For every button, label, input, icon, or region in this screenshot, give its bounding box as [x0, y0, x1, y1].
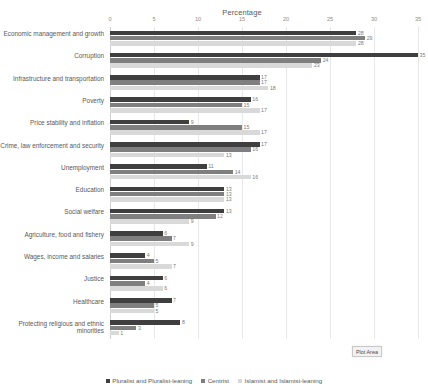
chart-category-row: Agriculture, food and fishery679 [110, 228, 418, 250]
chart-category-row: Crime, law enforcement and security17161… [110, 138, 418, 160]
bar-series-2[interactable] [110, 175, 251, 180]
chart-category-row: Unemployment111416 [110, 161, 418, 183]
bar-series-0[interactable] [110, 209, 224, 214]
chart-category-row: Price stability and inflation91517 [110, 116, 418, 138]
legend-item-2[interactable]: Islamist and Islamist-leaning [238, 377, 322, 384]
bar-series-0[interactable] [110, 75, 260, 80]
bar-series-0[interactable] [110, 231, 163, 236]
x-tick-label-35: 35 [415, 16, 421, 22]
bar-value-label: 7 [173, 236, 176, 241]
chart-category-row: Economic management and growth282928 [110, 27, 418, 49]
category-label: Protecting religious and ethnic minoriti… [0, 320, 104, 335]
x-tick-label-20: 20 [283, 16, 289, 22]
bar-value-label: 17 [261, 108, 267, 113]
bar-value-label: 13 [226, 197, 232, 202]
bar-series-1[interactable] [110, 58, 321, 63]
bar-series-0[interactable] [110, 142, 260, 147]
bar-series-1[interactable] [110, 259, 154, 264]
bar-series-2[interactable] [110, 130, 260, 135]
bar-value-label: 14 [235, 170, 241, 175]
legend-item-1[interactable]: Centrist [201, 377, 229, 384]
legend-swatch-icon [238, 379, 242, 383]
bar-series-0[interactable] [110, 187, 224, 192]
bar-series-1[interactable] [110, 303, 154, 308]
bar-series-1[interactable] [110, 36, 365, 41]
bar-value-label: 17 [261, 130, 267, 135]
category-label: Wages, income and salaries [0, 253, 104, 261]
bar-series-1[interactable] [110, 214, 216, 219]
bar-series-0[interactable] [110, 298, 172, 303]
chart-category-row: Education131313 [110, 183, 418, 205]
bar-value-label: 16 [252, 147, 258, 152]
bar-series-1[interactable] [110, 80, 260, 85]
bar-series-1[interactable] [110, 326, 136, 331]
plot-area[interactable]: 05101520253035Economic management and gr… [110, 27, 418, 339]
chart-container: Percentage 05101520253035Economic manage… [0, 0, 428, 388]
bar-value-label: 17 [261, 80, 267, 85]
bar-series-2[interactable] [110, 242, 189, 247]
category-label: Poverty [0, 97, 104, 105]
bar-value-label: 15 [244, 125, 250, 130]
bar-series-2[interactable] [110, 219, 189, 224]
bar-value-label: 3 [138, 326, 141, 331]
category-label: Justice [0, 275, 104, 283]
bar-value-label: 11 [208, 164, 213, 169]
x-tick-label-5: 5 [152, 16, 155, 22]
legend-item-0[interactable]: Pluralist and Pluralist-leaning [106, 377, 192, 384]
bar-value-label: 24 [323, 58, 329, 63]
bar-series-0[interactable] [110, 276, 163, 281]
bar-series-2[interactable] [110, 108, 260, 113]
bar-value-label: 7 [173, 298, 176, 303]
bar-series-0[interactable] [110, 164, 207, 169]
bar-value-label: 28 [358, 41, 364, 46]
gridline-35 [418, 27, 419, 339]
chart-category-row: Protecting religious and ethnic minoriti… [110, 317, 418, 339]
bar-value-label: 12 [217, 214, 223, 219]
bar-value-label: 18 [270, 86, 276, 91]
category-label: Agriculture, food and fishery [0, 231, 104, 239]
bar-series-1[interactable] [110, 236, 172, 241]
category-label: Price stability and inflation [0, 119, 104, 127]
bar-value-label: 4 [147, 253, 150, 258]
bar-series-0[interactable] [110, 320, 180, 325]
legend-swatch-icon [201, 379, 205, 383]
bar-series-0[interactable] [110, 97, 251, 102]
x-tick-label-0: 0 [108, 16, 111, 22]
category-label: Economic management and growth [0, 30, 104, 38]
bar-value-label: 6 [164, 286, 167, 291]
bar-series-1[interactable] [110, 103, 242, 108]
bar-value-label: 17 [261, 142, 267, 147]
bar-value-label: 23 [314, 63, 320, 68]
bar-series-0[interactable] [110, 253, 145, 258]
legend-label: Pluralist and Pluralist-leaning [112, 377, 192, 384]
bar-series-2[interactable] [110, 286, 163, 291]
bar-value-label: 7 [173, 264, 176, 269]
bar-series-2[interactable] [110, 331, 119, 336]
bar-series-1[interactable] [110, 170, 233, 175]
bar-series-2[interactable] [110, 41, 356, 46]
bar-value-label: 1 [120, 331, 123, 336]
bar-series-1[interactable] [110, 125, 242, 130]
bar-series-1[interactable] [110, 192, 224, 197]
bar-series-2[interactable] [110, 86, 268, 91]
plot-area-tooltip: Plot Area [352, 346, 382, 357]
bar-series-2[interactable] [110, 153, 224, 158]
bar-value-label: 28 [358, 31, 364, 36]
category-label: Education [0, 186, 104, 194]
bar-series-0[interactable] [110, 53, 418, 58]
bar-value-label: 9 [191, 242, 194, 247]
bar-series-2[interactable] [110, 309, 154, 314]
bar-value-label: 6 [164, 276, 167, 281]
bar-value-label: 16 [252, 97, 258, 102]
bar-value-label: 9 [191, 120, 194, 125]
bar-value-label: 29 [367, 36, 373, 41]
bar-series-0[interactable] [110, 31, 356, 36]
bar-series-1[interactable] [110, 281, 145, 286]
category-label: Social welfare [0, 208, 104, 216]
bar-series-0[interactable] [110, 120, 189, 125]
bar-series-2[interactable] [110, 63, 312, 68]
bar-series-2[interactable] [110, 264, 172, 269]
bar-series-2[interactable] [110, 197, 224, 202]
category-label: Healthcare [0, 298, 104, 306]
category-label: Crime, law enforcement and security [0, 142, 104, 150]
